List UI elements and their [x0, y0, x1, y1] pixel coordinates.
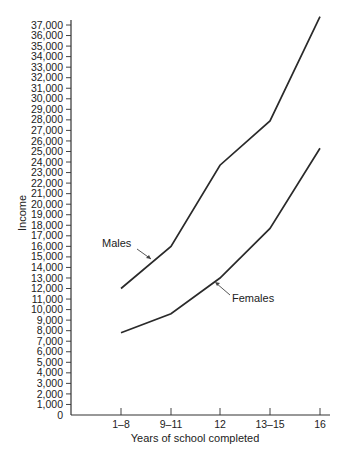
y-tick-label: 28,000: [31, 113, 63, 125]
income-by-education-chart: 01,0002,0003,0004,0005,0006,0007,0008,00…: [0, 0, 346, 454]
x-tick-label: 13–15: [255, 418, 284, 430]
x-tick-label: 12: [214, 418, 226, 430]
females-line: [121, 148, 320, 332]
y-tick-label: 30,000: [31, 92, 63, 104]
males-line: [121, 17, 320, 289]
y-tick-label: 33,000: [31, 61, 63, 73]
y-tick-label: 23,000: [31, 166, 63, 178]
y-tick-label: 7,000: [37, 335, 63, 347]
x-axis-ticks: 1–89–111213–1516: [112, 408, 326, 430]
y-tick-label: 12,000: [31, 282, 63, 294]
y-tick-label: 11,000: [32, 293, 63, 305]
y-tick-label: 21,000: [31, 187, 63, 199]
y-tick-label: 27,000: [31, 124, 63, 136]
x-tick-label: 1–8: [112, 418, 130, 430]
y-tick-label: 25,000: [31, 145, 63, 157]
y-tick-label: 2,000: [37, 388, 63, 400]
x-axis-title: Years of school completed: [131, 432, 260, 444]
y-tick-label: 9,000: [37, 314, 63, 326]
y-tick-label: 24,000: [31, 156, 63, 168]
y-tick-label: 29,000: [31, 103, 63, 115]
y-tick-label: 18,000: [31, 219, 63, 231]
y-tick-label: 34,000: [31, 50, 63, 62]
y-tick-label: 16,000: [31, 240, 63, 252]
y-tick-label: 6,000: [37, 345, 63, 357]
y-tick-label: 19,000: [31, 208, 63, 220]
y-tick-label: 3,000: [37, 377, 63, 389]
y-tick-label: 32,000: [31, 71, 63, 83]
y-axis-ticks: 01,0002,0003,0004,0005,0006,0007,0008,00…: [31, 19, 71, 421]
y-tick-label: 8,000: [37, 324, 63, 336]
y-tick-label: 37,000: [31, 19, 63, 31]
y-tick-label: 1,000: [37, 398, 63, 410]
y-tick-label: 35,000: [31, 40, 63, 52]
y-tick-label: 0: [57, 409, 63, 421]
x-tick-label: 16: [314, 418, 326, 430]
y-tick-label: 36,000: [31, 29, 63, 41]
y-tick-label: 15,000: [31, 250, 63, 262]
series-lines: [121, 17, 320, 333]
y-tick-label: 14,000: [31, 261, 63, 273]
x-tick-label: 9–11: [160, 418, 183, 430]
males-label: Males: [102, 237, 132, 249]
y-tick-label: 26,000: [31, 135, 63, 147]
y-tick-label: 5,000: [37, 356, 63, 368]
females-label: Females: [232, 292, 275, 304]
y-tick-label: 4,000: [37, 366, 63, 378]
y-tick-label: 22,000: [31, 177, 63, 189]
y-tick-label: 20,000: [31, 198, 63, 210]
y-tick-label: 10,000: [31, 303, 63, 315]
y-tick-label: 13,000: [31, 272, 63, 284]
y-tick-label: 31,000: [31, 82, 63, 94]
y-axis-title: Income: [16, 195, 28, 231]
y-tick-label: 17,000: [31, 229, 63, 241]
